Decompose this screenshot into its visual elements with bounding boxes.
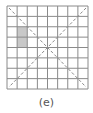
grid-diagram xyxy=(0,0,93,95)
figure-caption: (e) xyxy=(0,97,93,109)
